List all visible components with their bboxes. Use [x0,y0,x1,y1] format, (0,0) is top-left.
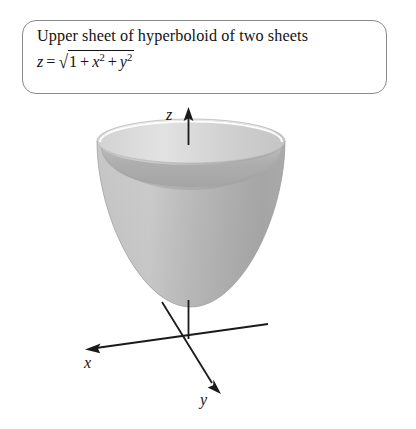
y-axis-arrowhead [208,379,221,394]
x-axis: x [83,324,268,371]
y-axis: y [162,302,221,409]
hyperboloid-surface [97,119,285,307]
formula-term-y-base: y [120,53,127,71]
caption-box: Upper sheet of hyperboloid of two sheets… [22,20,387,94]
x-axis-label: x [83,354,91,371]
formula-term-y-exponent: 2 [127,51,132,63]
formula-radicand: 1+x2+y2 [68,50,134,73]
surface-plot-svg: z x y [0,95,416,429]
formula-plus-1: + [77,53,92,71]
formula-term-constant: 1 [69,53,77,71]
y-axis-label: y [198,391,208,409]
caption-formula: z=√1+x2+y2 [37,50,374,73]
figure-root: Upper sheet of hyperboloid of two sheets… [0,0,416,429]
caption-title: Upper sheet of hyperboloid of two sheets [37,26,374,47]
formula-plus-2: + [105,53,120,71]
formula-radical: √1+x2+y2 [58,50,134,73]
z-axis-label: z [165,106,173,123]
surface-plot: z x y [0,95,416,429]
formula-term-x-exponent: 2 [99,51,104,63]
formula-equals: = [43,53,58,71]
